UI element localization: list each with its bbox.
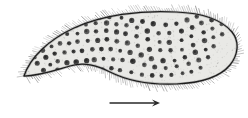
- figure-root: [0, 0, 248, 118]
- stipple-dot: [98, 47, 99, 48]
- stipple-dot: [99, 43, 100, 44]
- granule: [152, 65, 157, 70]
- stipple-dot: [51, 62, 52, 63]
- stipple-dot: [131, 31, 132, 32]
- granule: [211, 44, 215, 48]
- granule-core: [203, 39, 205, 41]
- granule-core: [128, 51, 130, 53]
- stipple-dot: [145, 16, 146, 17]
- stipple-dot: [198, 65, 199, 66]
- stipple-dot: [154, 15, 155, 16]
- stipple-dot: [100, 57, 101, 58]
- granule: [90, 47, 95, 52]
- stipple-dot: [181, 43, 182, 44]
- granule-core: [124, 32, 126, 34]
- stipple-dot: [138, 23, 139, 24]
- granule-core: [221, 33, 223, 35]
- stipple-dot: [53, 67, 54, 68]
- granule-core: [148, 48, 150, 50]
- granule: [67, 41, 71, 45]
- stipple-dot: [156, 72, 157, 73]
- granule-core: [102, 58, 104, 60]
- stipple-dot: [186, 23, 187, 24]
- stipple-dot: [108, 44, 109, 45]
- stipple-dot: [170, 37, 171, 38]
- stipple-dot: [142, 18, 143, 19]
- granule: [120, 58, 125, 63]
- granule: [160, 58, 165, 63]
- granule: [183, 55, 187, 59]
- stipple-dot: [165, 30, 166, 31]
- stipple-dot: [161, 68, 162, 69]
- granule-core: [141, 20, 143, 22]
- stipple-dot: [163, 66, 164, 67]
- granule: [86, 39, 90, 43]
- stipple-dot: [200, 73, 201, 74]
- granule-core: [180, 30, 182, 32]
- stipple-dot: [81, 33, 82, 34]
- stipple-dot: [234, 48, 235, 49]
- stipple-dot: [45, 65, 46, 66]
- granule-core: [159, 49, 161, 51]
- stipple-dot: [95, 56, 96, 57]
- stipple-dot: [162, 68, 163, 69]
- stipple-dot: [133, 15, 134, 16]
- granule: [104, 28, 109, 33]
- granule-core: [161, 59, 163, 61]
- granule-core: [212, 36, 214, 38]
- stipple-dot: [107, 58, 108, 59]
- stipple-dot: [145, 79, 146, 80]
- stipple-dot: [116, 57, 117, 58]
- granule: [158, 40, 162, 44]
- stipple-dot: [101, 45, 102, 46]
- stipple-dot: [121, 23, 122, 24]
- stipple-dot: [186, 75, 187, 76]
- stipple-dot: [225, 65, 226, 66]
- granule: [220, 32, 225, 37]
- stipple-dot: [208, 42, 209, 43]
- stipple-dot: [60, 60, 61, 61]
- stipple-dot: [211, 72, 212, 73]
- stipple-dot: [92, 46, 93, 47]
- granule-core: [164, 23, 166, 25]
- stipple-dot: [219, 70, 220, 71]
- granule: [174, 22, 178, 26]
- granule-core: [192, 44, 194, 46]
- granule: [198, 66, 202, 70]
- granule: [184, 17, 189, 22]
- stipple-dot: [173, 31, 174, 32]
- stipple-dot: [114, 68, 115, 69]
- granule-core: [131, 60, 133, 62]
- stipple-dot: [180, 81, 181, 82]
- stipple-dot: [113, 28, 114, 29]
- granule: [35, 61, 40, 66]
- stipple-dot: [152, 80, 153, 81]
- granule-core: [181, 72, 183, 74]
- stipple-dot: [165, 58, 166, 59]
- stipple-dot: [173, 48, 174, 49]
- granule-core: [105, 29, 107, 31]
- granule: [179, 29, 184, 34]
- granule: [169, 73, 173, 77]
- stipple-dot: [204, 27, 205, 28]
- stipple-dot: [119, 54, 120, 55]
- stipple-dot: [206, 60, 207, 61]
- granule-core: [65, 61, 67, 63]
- stipple-dot: [175, 74, 176, 75]
- stipple-dot: [150, 65, 151, 66]
- granule-core: [59, 42, 61, 44]
- granule-core: [130, 71, 132, 73]
- stipple-dot: [132, 30, 133, 31]
- stipple-dot: [48, 54, 49, 55]
- stipple-dot: [94, 56, 95, 57]
- stipple-dot: [152, 17, 153, 18]
- stipple-dot: [111, 20, 112, 21]
- stipple-dot: [124, 50, 125, 51]
- stipple-dot: [70, 50, 71, 51]
- stipple-dot: [155, 75, 156, 76]
- stipple-dot: [199, 52, 200, 53]
- stipple-dot: [77, 29, 78, 30]
- stipple-dot: [73, 55, 74, 56]
- stipple-dot: [141, 26, 142, 27]
- stipple-dot: [203, 44, 204, 45]
